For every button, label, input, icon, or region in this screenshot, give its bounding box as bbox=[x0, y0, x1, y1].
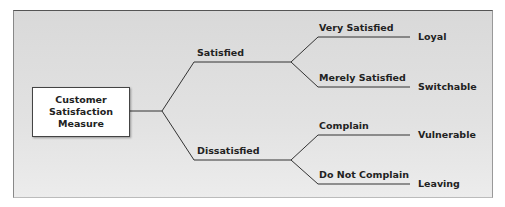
root-label-line2: Satisfaction bbox=[49, 106, 113, 118]
node-complain: Complain bbox=[319, 120, 369, 131]
outcome-switchable: Switchable bbox=[418, 81, 477, 92]
outcome-vulnerable: Vulnerable bbox=[418, 129, 476, 140]
root-node-customer-satisfaction-measure: Customer Satisfaction Measure bbox=[32, 87, 130, 137]
node-do-not-complain: Do Not Complain bbox=[319, 169, 409, 180]
root-label-line1: Customer bbox=[49, 94, 113, 106]
node-very-satisfied: Very Satisfied bbox=[319, 22, 393, 33]
node-satisfied: Satisfied bbox=[197, 47, 244, 58]
node-merely-satisfied: Merely Satisfied bbox=[319, 72, 406, 83]
root-label-line3: Measure bbox=[49, 118, 113, 130]
node-dissatisfied: Dissatisfied bbox=[197, 145, 260, 156]
outcome-leaving: Leaving bbox=[418, 178, 460, 189]
outcome-loyal: Loyal bbox=[418, 31, 446, 42]
